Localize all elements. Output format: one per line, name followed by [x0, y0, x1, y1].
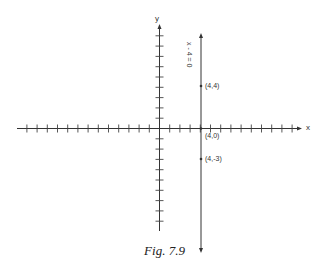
- figure-caption: Fig. 7.9: [0, 243, 329, 259]
- point-4-neg3: [200, 158, 203, 161]
- x-axis-label: x: [306, 123, 310, 132]
- point-4-4: [200, 85, 203, 88]
- y-axis-label: y: [155, 14, 159, 23]
- point-4-0: [200, 127, 203, 130]
- figure-7-9: y x x - 4 = 0 (4,4) (4,0) (4,-3) Fig. 7.…: [0, 0, 329, 271]
- y-axis-arrow-icon: [158, 24, 162, 29]
- coordinate-plane: [0, 0, 329, 271]
- x-axis-arrow-icon: [297, 127, 302, 131]
- line-top-arrow-icon: [199, 33, 203, 38]
- line-equation-label: x - 4 = 0: [186, 42, 193, 67]
- point-label-4-4: (4,4): [205, 82, 219, 89]
- point-label-4-neg3: (4,-3): [205, 155, 222, 162]
- point-label-4-0: (4,0): [205, 132, 219, 139]
